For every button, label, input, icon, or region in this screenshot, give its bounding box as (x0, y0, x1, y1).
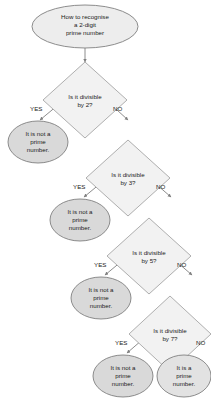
edge-label-div3-no: NO (156, 183, 165, 190)
node-outcome-not-prime-1 (8, 121, 68, 163)
edge-label-div2-yes: YES (30, 105, 42, 112)
node-start (32, 5, 138, 48)
edge-label-div3-yes: YES (73, 183, 85, 190)
edge-label-div2-no: NO (113, 105, 122, 112)
node-outcome-not-prime-4 (93, 355, 153, 397)
edge-label-div5-no: NO (177, 261, 186, 268)
node-outcome-prime (157, 355, 211, 397)
edge-label-div7-no: NO (196, 339, 205, 346)
node-outcome-not-prime-2 (50, 199, 110, 241)
edge-label-div7-yes: YES (115, 339, 127, 346)
flowchart-shapes-layer (0, 0, 211, 408)
node-outcome-not-prime-3 (71, 277, 131, 319)
edge-label-div5-yes: YES (94, 261, 106, 268)
flowchart-diagram: How to recognise a 2-digit prime number … (0, 0, 211, 408)
